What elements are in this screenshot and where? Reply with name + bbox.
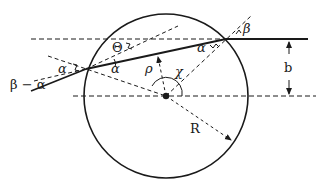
rho-arrow	[158, 57, 166, 96]
sphere-refraction-diagram: Θ α α α β β − α ρ χ R b	[0, 0, 318, 184]
beta-tick	[236, 30, 241, 34]
beta-label: β	[242, 21, 251, 36]
theta-label: Θ	[112, 40, 123, 55]
b-label: b	[284, 60, 292, 75]
alpha-left-tick	[73, 64, 79, 71]
beta-minus-alpha-label: β − α	[10, 77, 46, 92]
center-point	[163, 93, 169, 99]
alpha-right-label: α	[197, 40, 206, 55]
alpha-left-label: α	[58, 61, 67, 76]
chi-label: χ	[174, 64, 184, 79]
radius-label: R	[190, 121, 201, 136]
rho-label: ρ	[144, 61, 153, 76]
alpha-inner-label: α	[111, 61, 120, 76]
